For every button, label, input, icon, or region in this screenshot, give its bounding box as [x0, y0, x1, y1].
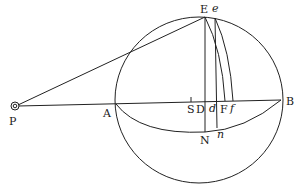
- label-B: B: [286, 95, 294, 108]
- label-F: F: [220, 103, 228, 116]
- label-f: f: [229, 102, 236, 115]
- label-A: A: [102, 107, 112, 120]
- label-n: n: [217, 128, 224, 141]
- label-N: N: [200, 134, 210, 147]
- sphere-diagram: P A B E e S D d F f N n: [0, 0, 297, 189]
- sphere-outline: [115, 17, 283, 183]
- point-P-inner: [13, 104, 17, 108]
- label-D: D: [196, 103, 205, 116]
- label-d: d: [209, 102, 216, 115]
- label-E: E: [200, 3, 208, 16]
- label-P: P: [9, 115, 17, 128]
- line-PB: [18, 100, 281, 106]
- label-e: e: [212, 2, 219, 15]
- line-PE: [18, 17, 205, 105]
- label-S: S: [187, 103, 195, 116]
